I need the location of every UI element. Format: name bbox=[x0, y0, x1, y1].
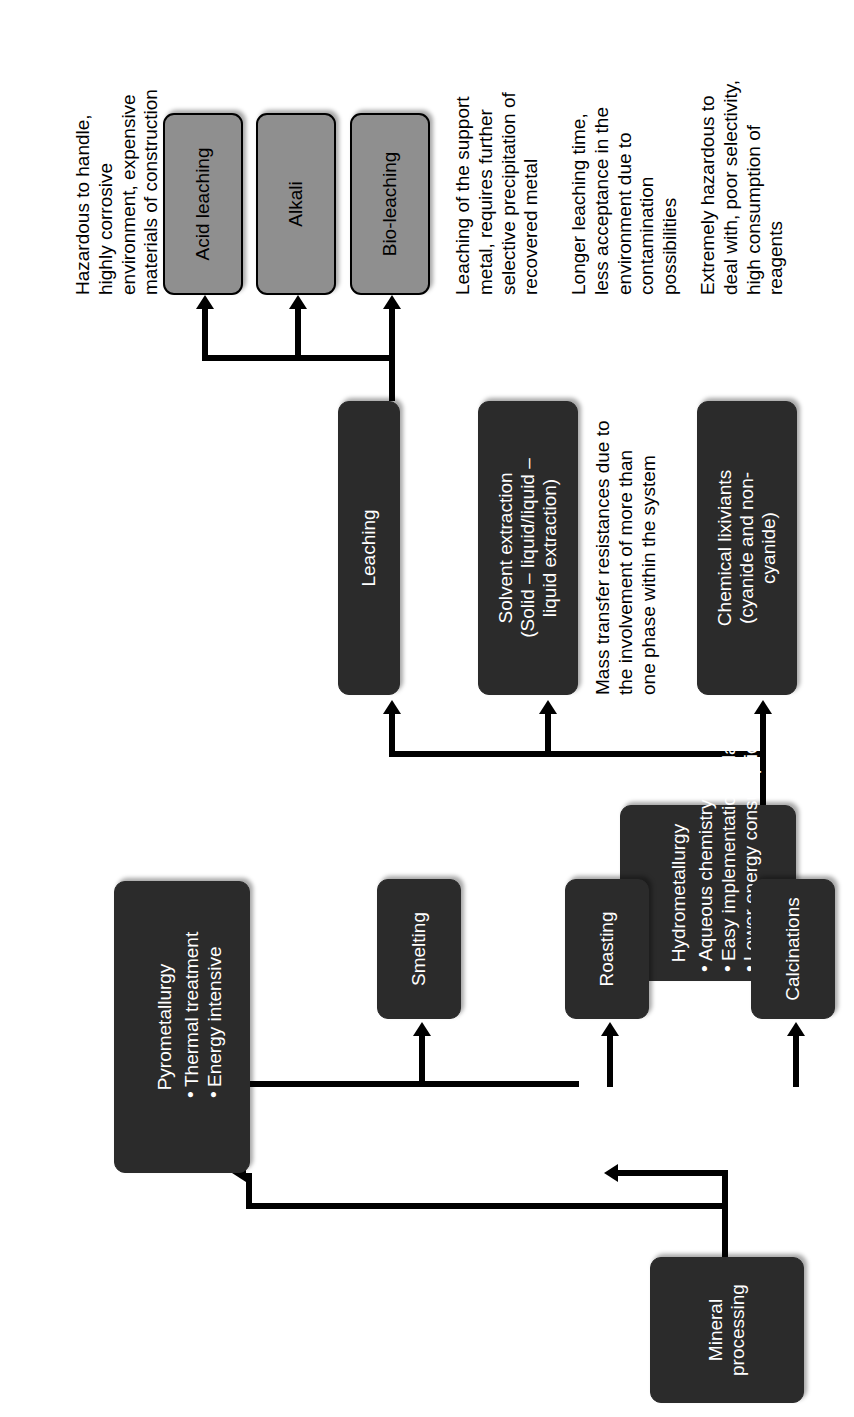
connector-leaching-out bbox=[389, 355, 395, 401]
node-roasting-label: Roasting bbox=[596, 912, 618, 987]
bullet-item: Energy intensive bbox=[204, 932, 226, 1098]
node-roasting[interactable]: Roasting bbox=[565, 879, 649, 1019]
arrow-to-alkali bbox=[289, 295, 307, 309]
arrow-to-leaching bbox=[383, 700, 401, 714]
connector-trunk-vertical bbox=[246, 1203, 728, 1209]
connector-hydro-stem bbox=[618, 1170, 728, 1176]
node-bio-leaching-label: Bio-leaching bbox=[379, 152, 401, 257]
rotated-diagram-wrapper: Mineral processing Pyrometallurgy Therma… bbox=[0, 0, 854, 1417]
note-acid-leaching: Hazardous to handle, highly corrosive en… bbox=[72, 0, 163, 295]
node-calcinations[interactable]: Calcinations bbox=[751, 879, 835, 1019]
connector-to-alkali bbox=[295, 303, 301, 361]
node-mineral-processing[interactable]: Mineral processing bbox=[650, 1257, 804, 1403]
node-calcinations-label: Calcinations bbox=[782, 897, 804, 1001]
arrow-to-chemical-lixiviants bbox=[754, 700, 772, 714]
connector-pyro-to-smelting bbox=[419, 1031, 425, 1087]
node-bio-leaching[interactable]: Bio-leaching bbox=[350, 113, 430, 295]
note-alkali: Leaching of the support metal, requires … bbox=[452, 0, 543, 295]
connector-to-acid-leaching bbox=[202, 303, 208, 361]
node-leaching[interactable]: Leaching bbox=[338, 401, 400, 695]
node-alkali[interactable]: Alkali bbox=[256, 113, 336, 295]
bullet-item: Thermal treatment bbox=[181, 932, 203, 1098]
node-acid-leaching[interactable]: Acid leaching bbox=[163, 113, 243, 295]
arrow-to-smelting bbox=[413, 1022, 431, 1036]
node-chemical-lixiviants-label: Chemical lixiviants (cyanide and non- cy… bbox=[714, 470, 781, 626]
note-bio-leaching: Longer leaching time, less acceptance in… bbox=[568, 0, 682, 295]
arrow-to-hydrometallurgy bbox=[604, 1164, 618, 1182]
arrow-to-bio-leaching bbox=[383, 295, 401, 309]
connector-mineral-to-trunk bbox=[722, 1203, 728, 1257]
node-alkali-label: Alkali bbox=[285, 181, 307, 226]
arrow-to-roasting bbox=[601, 1022, 619, 1036]
connector-hydro-to-solvent bbox=[545, 707, 551, 757]
node-solvent-extraction-label: Solvent extraction (Solid – liquid/liqui… bbox=[495, 458, 562, 638]
node-pyrometallurgy-bullets: Thermal treatment Energy intensive bbox=[181, 932, 225, 1098]
node-acid-leaching-label: Acid leaching bbox=[192, 147, 214, 260]
arrow-to-acid-leaching bbox=[196, 295, 214, 309]
connector-to-bio-leaching bbox=[389, 303, 395, 361]
bullet-item: Easy implementation in lab, bbox=[718, 729, 740, 972]
node-leaching-label: Leaching bbox=[358, 509, 380, 586]
node-pyrometallurgy-title: Pyrometallurgy bbox=[154, 882, 176, 1172]
arrow-to-calcinations bbox=[787, 1022, 805, 1036]
connector-trunk-to-pyro bbox=[246, 1173, 252, 1209]
node-pyrometallurgy[interactable]: Pyrometallurgy Thermal treatment Energy … bbox=[114, 881, 250, 1173]
connector-pyro-to-roasting bbox=[607, 1031, 613, 1087]
note-solvent-extraction: Mass transfer resistances due to the inv… bbox=[592, 275, 660, 695]
bullet-item: Aqueous chemistry bbox=[695, 729, 717, 972]
node-hydrometallurgy-title: Hydrometallurgy bbox=[668, 806, 690, 980]
node-solvent-extraction[interactable]: Solvent extraction (Solid – liquid/liqui… bbox=[478, 401, 578, 695]
diagram-canvas: Mineral processing Pyrometallurgy Therma… bbox=[0, 0, 854, 1417]
connector-pyro-to-calcinations bbox=[793, 1031, 799, 1087]
node-mineral-processing-label: Mineral processing bbox=[705, 1284, 749, 1376]
node-chemical-lixiviants[interactable]: Chemical lixiviants (cyanide and non- cy… bbox=[697, 401, 797, 695]
connector-trunk-to-hydro bbox=[722, 1173, 728, 1209]
node-smelting-label: Smelting bbox=[408, 912, 430, 986]
note-chemical-lixiviants: Extremely hazardous to deal with, poor s… bbox=[697, 0, 788, 295]
node-smelting[interactable]: Smelting bbox=[377, 879, 461, 1019]
connector-hydro-to-leaching bbox=[389, 707, 395, 757]
arrow-to-solvent-extraction bbox=[539, 700, 557, 714]
